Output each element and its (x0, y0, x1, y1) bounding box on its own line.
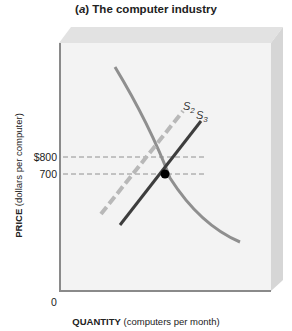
panel-top-bevel (59, 27, 283, 43)
y-axis-label: PRICE (dollars per computer) (13, 96, 24, 256)
origin-label: 0 (51, 296, 57, 308)
x-axis-label: QUANTITY (computers per month) (0, 316, 292, 327)
equilibrium-point (161, 170, 170, 179)
panel-side-bevel (271, 27, 283, 291)
chart-plot: S2 S3 (0, 0, 292, 331)
